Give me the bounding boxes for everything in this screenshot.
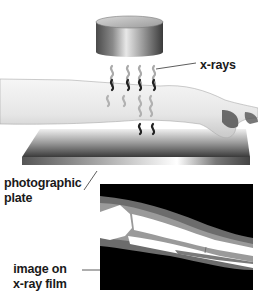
photographic-plate-label: photographic plate: [4, 176, 81, 206]
xray-film-label: image on x-ray film: [13, 262, 67, 292]
xray-film-image: [100, 184, 253, 290]
plate-leader-line: [84, 171, 97, 190]
xrays-leader-line: [156, 63, 196, 69]
xrays-label: x-rays: [200, 58, 236, 73]
film-label-line1: image on: [13, 262, 67, 277]
plate-label-line2: plate: [4, 191, 81, 206]
xray-source: [96, 16, 163, 57]
plate-label-line1: photographic: [4, 176, 81, 191]
film-label-line2: x-ray film: [13, 277, 67, 292]
xray-diagram: [0, 0, 258, 293]
photographic-plate: [22, 129, 250, 165]
